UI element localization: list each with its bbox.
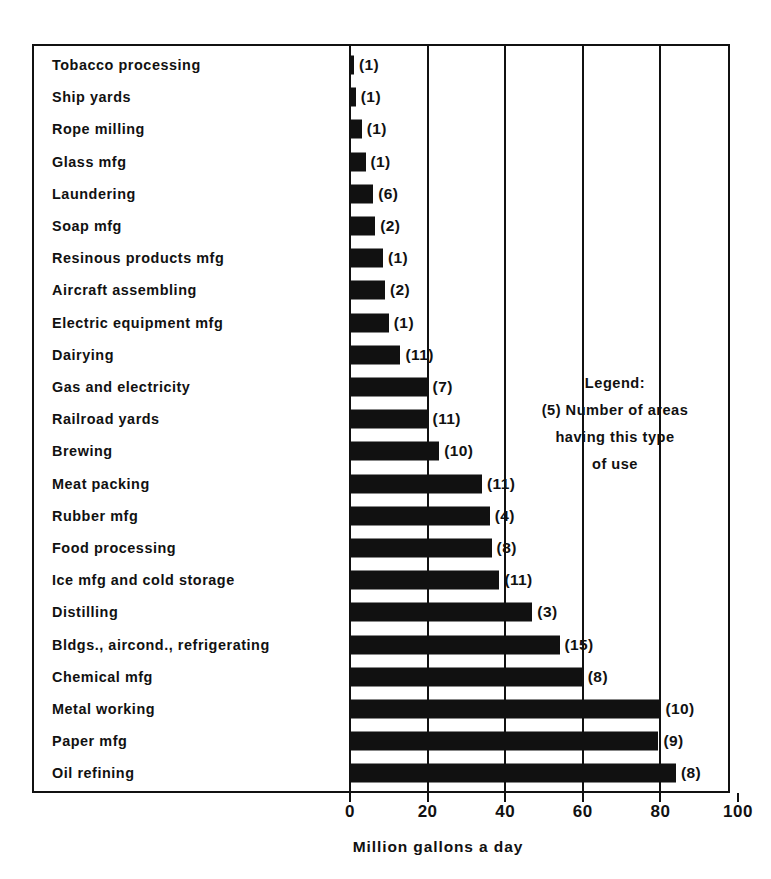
- bar-value-label: (1): [388, 249, 408, 267]
- x-axis-title-text: Million gallons a day: [353, 838, 523, 855]
- bar-row-label: Oil refining: [52, 765, 135, 781]
- bar-row-label: Glass mfg: [52, 154, 127, 170]
- x-tick-mark: [737, 793, 739, 802]
- x-tick-mark: [427, 793, 429, 802]
- bar-value-label: (2): [390, 281, 410, 299]
- bar-row-label: Distilling: [52, 604, 118, 620]
- legend-line-2: having this type: [500, 424, 730, 451]
- bar: [350, 539, 492, 558]
- bar-row-label: Ice mfg and cold storage: [52, 572, 235, 588]
- bar-row-label: Metal working: [52, 701, 155, 717]
- bar-value-label: (10): [444, 442, 473, 460]
- bar: [350, 700, 660, 719]
- bar-row: Ice mfg and cold storage(11): [34, 563, 728, 597]
- bar-value-label: (4): [495, 507, 515, 525]
- bar: [350, 313, 389, 332]
- x-tick-label: 40: [495, 802, 515, 822]
- bar: [350, 603, 532, 622]
- bar-value-label: (1): [367, 120, 387, 138]
- x-tick-mark: [582, 793, 584, 802]
- x-tick-mark: [349, 793, 351, 802]
- bar: [350, 217, 375, 236]
- x-axis-title: Million gallons a day: [0, 838, 771, 856]
- bar-value-label: (1): [361, 88, 381, 106]
- bar-row: Food processing(8): [34, 531, 728, 565]
- bar-row-label: Paper mfg: [52, 733, 127, 749]
- bar-row-label: Gas and electricity: [52, 379, 190, 395]
- bar-value-label: (10): [665, 700, 694, 718]
- bar: [350, 88, 356, 107]
- bar: [350, 56, 354, 75]
- bar: [350, 571, 499, 590]
- bar-value-label: (9): [663, 732, 683, 750]
- x-tick-label: 0: [345, 802, 355, 822]
- legend-line-0: Legend:: [500, 370, 730, 397]
- bar-row-label: Dairying: [52, 347, 114, 363]
- bar: [350, 635, 560, 654]
- bar-row: Metal working(10): [34, 692, 728, 726]
- bar-row-label: Chemical mfg: [52, 669, 153, 685]
- bar-value-label: (1): [359, 56, 379, 74]
- bar: [350, 281, 385, 300]
- bar-row: Chemical mfg(8): [34, 660, 728, 694]
- bar-row-label: Bldgs., aircond., refrigerating: [52, 637, 270, 653]
- bar-value-label: (15): [565, 636, 594, 654]
- bar-row: Rope milling(1): [34, 112, 728, 146]
- bar: [350, 120, 362, 139]
- bar-value-label: (11): [405, 346, 433, 364]
- bar-value-label: (6): [378, 185, 398, 203]
- x-tick-mark: [659, 793, 661, 802]
- bar-row: Soap mfg(2): [34, 209, 728, 243]
- bar-row: Dairying(11): [34, 338, 728, 372]
- bar-row: Resinous products mfg(1): [34, 241, 728, 275]
- bar-value-label: (7): [433, 378, 453, 396]
- bar-row-label: Meat packing: [52, 476, 150, 492]
- bar: [350, 410, 428, 429]
- bar-row: Bldgs., aircond., refrigerating(15): [34, 628, 728, 662]
- bar-row: Aircraft assembling(2): [34, 273, 728, 307]
- bar-row: Glass mfg(1): [34, 145, 728, 179]
- bar-value-label: (11): [504, 571, 532, 589]
- bar-row-label: Rubber mfg: [52, 508, 138, 524]
- bar: [350, 764, 676, 783]
- bar-row-label: Tobacco processing: [52, 57, 201, 73]
- bar-value-label: (11): [433, 410, 461, 428]
- bar-row: Ship yards(1): [34, 80, 728, 114]
- bar-row: Oil refining(8): [34, 756, 728, 790]
- bar-row-label: Resinous products mfg: [52, 250, 224, 266]
- bar: [350, 667, 583, 686]
- bar-value-label: (8): [681, 764, 701, 782]
- bar-row-label: Ship yards: [52, 89, 131, 105]
- bar-row: Distilling(3): [34, 595, 728, 629]
- bar-row: Rubber mfg(4): [34, 499, 728, 533]
- bar-value-label: (2): [380, 217, 400, 235]
- bar-row: Laundering(6): [34, 177, 728, 211]
- x-tick-label: 80: [650, 802, 670, 822]
- bar-row-label: Rope milling: [52, 121, 145, 137]
- bar: [350, 378, 428, 397]
- x-tick-mark: [504, 793, 506, 802]
- bar-row-label: Brewing: [52, 443, 113, 459]
- bar: [350, 152, 366, 171]
- bar-row-label: Aircraft assembling: [52, 282, 197, 298]
- bar: [350, 506, 490, 525]
- bar-row-label: Soap mfg: [52, 218, 122, 234]
- bar-row: Electric equipment mfg(1): [34, 306, 728, 340]
- bar: [350, 442, 439, 461]
- bar-row-label: Laundering: [52, 186, 136, 202]
- bar: [350, 732, 658, 751]
- bar-value-label: (1): [394, 314, 414, 332]
- legend-line-3: of use: [500, 451, 730, 478]
- x-tick-label: 100: [723, 802, 753, 822]
- bar-chart: Tobacco processing(1)Ship yards(1)Rope m…: [0, 0, 771, 879]
- bar: [350, 184, 373, 203]
- bar-value-label: (8): [588, 668, 608, 686]
- legend-line-1: (5) Number of areas: [500, 397, 730, 424]
- bar-value-label: (1): [371, 153, 391, 171]
- bar-row-label: Electric equipment mfg: [52, 315, 223, 331]
- x-tick-label: 20: [418, 802, 438, 822]
- chart-legend: Legend: (5) Number of areas having this …: [500, 370, 730, 478]
- bar-row: Tobacco processing(1): [34, 48, 728, 82]
- bar-row: Paper mfg(9): [34, 724, 728, 758]
- bar-value-label: (3): [537, 603, 557, 621]
